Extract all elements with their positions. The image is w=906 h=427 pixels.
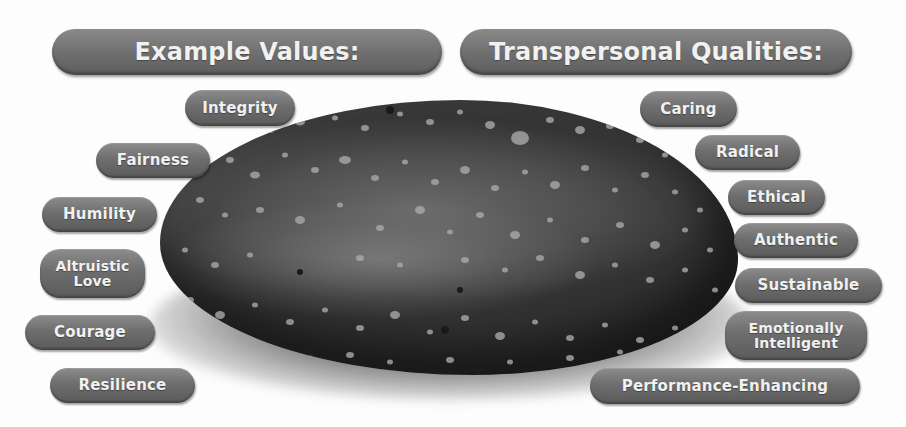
header-transpersonal-qualities-text: Transpersonal Qualities: bbox=[489, 40, 823, 64]
value-humility: Humility bbox=[42, 197, 157, 232]
header-example-values-text: Example Values: bbox=[134, 40, 359, 64]
quality-authentic: Authentic bbox=[734, 223, 858, 258]
quality-performance-enhancing: Performance-Enhancing bbox=[590, 368, 860, 404]
value-resilience: Resilience bbox=[50, 368, 195, 403]
diagram-canvas: Example Values: Transpersonal Qualities:… bbox=[0, 0, 906, 427]
speckled-stone-icon bbox=[160, 100, 738, 375]
value-altruistic-love: Altruistic Love bbox=[40, 249, 145, 298]
value-fairness: Fairness bbox=[96, 143, 210, 178]
stone-speckles bbox=[160, 100, 738, 375]
header-example-values: Example Values: bbox=[52, 29, 442, 75]
quality-caring: Caring bbox=[640, 91, 737, 127]
value-courage: Courage bbox=[25, 315, 155, 350]
quality-ethical: Ethical bbox=[728, 180, 825, 215]
header-transpersonal-qualities: Transpersonal Qualities: bbox=[460, 29, 852, 75]
quality-emotionally-intelligent: Emotionally Intelligent bbox=[725, 311, 867, 360]
quality-sustainable: Sustainable bbox=[735, 268, 882, 303]
value-integrity: Integrity bbox=[185, 90, 295, 126]
quality-radical: Radical bbox=[695, 135, 800, 170]
